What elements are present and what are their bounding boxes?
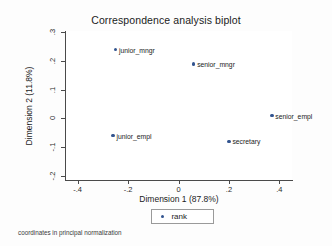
x-tick: [128, 180, 129, 184]
y-axis-title-wrap: Dimension 2 (11.8%): [22, 31, 36, 181]
x-tick: [229, 180, 230, 184]
x-tick-label: .2: [214, 185, 244, 194]
legend-label: rank: [171, 212, 187, 221]
y-tick-label-wrap: -.1: [46, 140, 60, 154]
y-tick-label-wrap: -.2: [46, 169, 60, 183]
y-tick: [61, 147, 65, 148]
y-tick: [61, 176, 65, 177]
y-tick-label-wrap: .2: [46, 54, 60, 68]
y-tick-label-wrap: 0: [46, 111, 60, 125]
y-tick: [61, 118, 65, 119]
y-tick-label: .1: [46, 83, 60, 97]
data-point-label: junior_empl: [116, 132, 151, 139]
chart-note: coordinates in principal normalization: [18, 229, 122, 236]
y-tick-label: .3: [46, 25, 60, 39]
y-tick-label: 0: [46, 111, 60, 125]
y-tick-label: -.1: [46, 140, 60, 154]
x-tick: [78, 180, 79, 184]
data-point-label: junior_mngr: [119, 46, 155, 53]
x-tick: [179, 180, 180, 184]
plot-area: [65, 31, 292, 180]
y-tick-label-wrap: .3: [46, 25, 60, 39]
x-tick: [279, 180, 280, 184]
legend[interactable]: rank: [151, 209, 214, 224]
x-axis-title: Dimension 1 (87.8%): [65, 194, 293, 204]
y-tick-label-wrap: .1: [46, 83, 60, 97]
data-point-label: secretary: [232, 138, 260, 145]
data-point-marker[interactable]: [192, 62, 195, 65]
y-axis-line: [65, 31, 66, 181]
x-tick-label: 0: [164, 185, 194, 194]
data-point-marker[interactable]: [270, 114, 273, 117]
y-tick-label: -.2: [46, 169, 60, 183]
data-point-label: senior_empl: [275, 112, 312, 119]
data-point-marker[interactable]: [227, 140, 230, 143]
y-tick: [61, 61, 65, 62]
x-tick-label: .4: [264, 185, 294, 194]
y-tick: [61, 32, 65, 33]
x-tick-label: -.4: [63, 185, 93, 194]
y-tick: [61, 90, 65, 91]
data-point-label: senior_mngr: [197, 60, 235, 67]
y-tick-label: .2: [46, 54, 60, 68]
data-point-marker[interactable]: [111, 134, 114, 137]
stata-graph-canvas: Correspondence analysis biplot -.4-.20.2…: [0, 0, 332, 246]
legend-marker-icon: [161, 215, 164, 218]
y-axis-title: Dimension 2 (11.8%): [24, 67, 34, 146]
x-tick-label: -.2: [113, 185, 143, 194]
